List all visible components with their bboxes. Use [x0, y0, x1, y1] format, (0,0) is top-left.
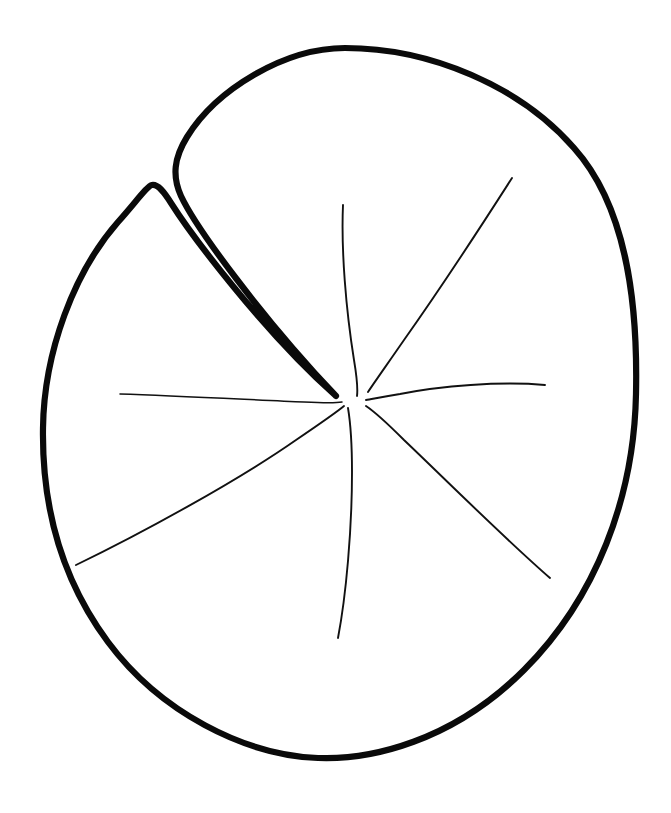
lily-pad-drawing	[0, 0, 671, 813]
illustration-canvas	[0, 0, 671, 813]
